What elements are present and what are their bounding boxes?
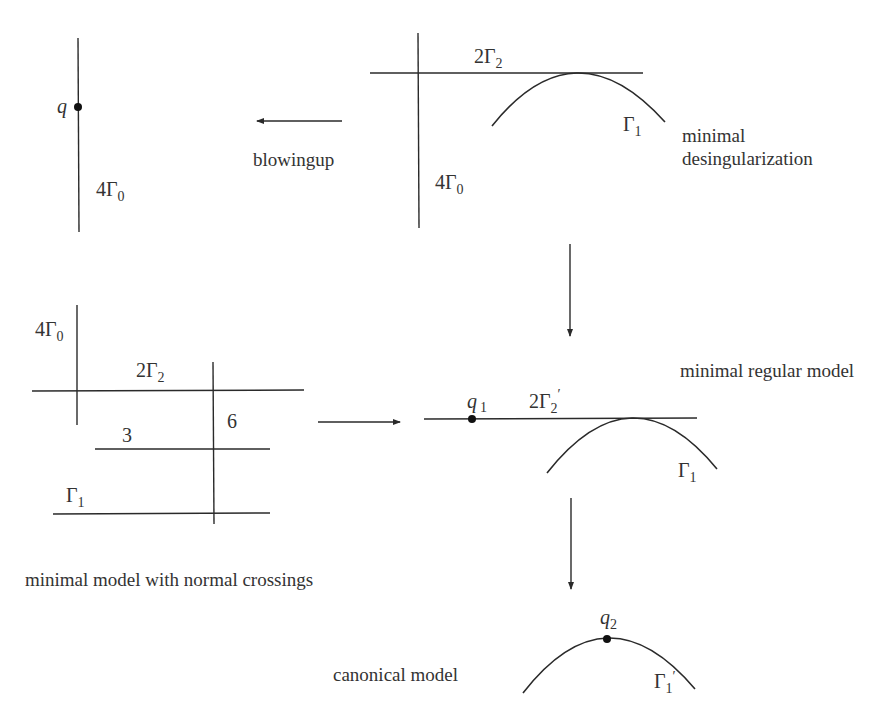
panel-original: q 4Γ0 <box>57 38 125 232</box>
nc-gamma2-line <box>32 390 304 391</box>
panel-canonical: q2 Γ1′ canonical model <box>333 606 695 696</box>
panel-normal-crossings: 4Γ0 2Γ2 6 3 Γ1 minimal model with normal… <box>25 305 313 590</box>
desing-gamma0-label: 4Γ0 <box>435 171 464 197</box>
panel-minimal-desingularization: 2Γ2 Γ1 4Γ0 minimal desingularization <box>370 33 813 228</box>
reg-caption: minimal regular model <box>680 360 854 381</box>
reg-gamma1-arc <box>547 418 717 473</box>
reg-gamma2-label: 2Γ2′ <box>529 387 561 416</box>
point-q2 <box>603 635 611 643</box>
diagram-svg: q 4Γ0 blowingup 2Γ2 Γ1 4Γ0 minimal desin… <box>0 0 878 728</box>
point-q2-label: q2 <box>600 606 617 632</box>
resolution-diagram: q 4Γ0 blowingup 2Γ2 Γ1 4Γ0 minimal desin… <box>0 0 878 728</box>
nc-gamma2-label: 2Γ2 <box>136 359 165 385</box>
curve-gamma0-label: 4Γ0 <box>96 178 125 204</box>
reg-gamma2-line <box>424 418 697 419</box>
nc-mult6-label: 6 <box>227 410 237 432</box>
blowup-label: blowingup <box>253 149 334 170</box>
desing-gamma1-label: Γ1 <box>623 113 642 139</box>
point-q-label: q <box>57 95 67 118</box>
nc-gamma1-line <box>53 513 270 514</box>
desing-caption-line1: minimal <box>682 125 745 146</box>
desing-gamma0-line <box>418 33 419 228</box>
nc-caption: minimal model with normal crossings <box>25 569 313 590</box>
desing-gamma1-arc <box>492 73 665 126</box>
can-caption: canonical model <box>333 664 458 685</box>
desing-gamma2-label: 2Γ2 <box>474 45 503 71</box>
nc-gamma1-label: Γ1 <box>66 484 85 510</box>
nc-mult3-label: 3 <box>122 424 132 446</box>
point-q <box>74 103 82 111</box>
reg-gamma1-label: Γ1 <box>678 459 697 485</box>
point-q1 <box>468 415 476 423</box>
nc-mult6-line <box>213 362 214 524</box>
point-q1-label: q1 <box>467 390 487 415</box>
blowup-arrow-group: blowingup <box>253 121 342 170</box>
desing-caption-line2: desingularization <box>682 148 813 169</box>
nc-gamma0-label: 4Γ0 <box>35 318 64 344</box>
panel-minimal-regular: q1 2Γ2′ Γ1 minimal regular model <box>424 360 854 485</box>
curve-gamma0-line <box>78 38 79 232</box>
can-gamma1-label: Γ1′ <box>654 669 676 696</box>
